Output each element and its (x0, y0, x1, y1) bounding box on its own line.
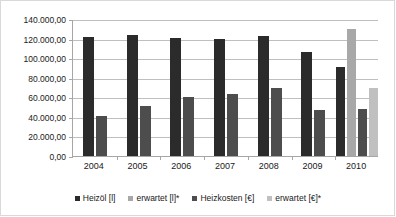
y-axis-tick-label: 60.000,00 (0, 94, 66, 103)
bar (83, 37, 94, 156)
bar (258, 36, 269, 156)
chart-legend: Heizöl [l]erwartet [l]*Heizkosten [€]erw… (0, 194, 396, 203)
bar (369, 88, 378, 156)
bar-group (117, 20, 161, 156)
bar-group (335, 20, 379, 156)
legend-item[interactable]: Heizkosten [€] (192, 194, 254, 203)
x-axis-tick (117, 156, 118, 160)
x-axis-tick (292, 156, 293, 160)
x-axis-tick (204, 156, 205, 160)
x-axis-tick (248, 156, 249, 160)
x-axis-tick (160, 156, 161, 160)
bar (347, 29, 356, 156)
y-axis-tick-label: 40.000,00 (0, 114, 66, 123)
bar-group (160, 20, 204, 156)
bar-group (204, 20, 248, 156)
x-axis-tick-label: 2004 (72, 161, 116, 171)
bar (314, 110, 325, 156)
y-axis-tick (69, 157, 73, 158)
legend-item[interactable]: erwartet [€]* (267, 194, 321, 203)
bar (140, 106, 151, 156)
plot-area (72, 20, 378, 157)
y-axis-tick-label: 0,00 (0, 153, 66, 162)
x-axis-tick-label: 2006 (159, 161, 203, 171)
x-axis-tick-label: 2007 (203, 161, 247, 171)
legend-swatch-icon (267, 196, 272, 201)
bar-chart: 140.000,00120.000,00100.000,0080.000,006… (0, 0, 396, 217)
bar (127, 35, 138, 156)
bar (227, 94, 238, 156)
legend-item[interactable]: Heizöl [l] (75, 194, 116, 203)
y-axis-tick-label: 120.000,00 (0, 36, 66, 45)
bar-group (292, 20, 336, 156)
bar (336, 67, 345, 156)
legend-swatch-icon (128, 196, 133, 201)
y-axis-tick-label: 100.000,00 (0, 55, 66, 64)
legend-swatch-icon (192, 196, 197, 201)
legend-swatch-icon (75, 196, 80, 201)
x-axis-tick-label: 2008 (247, 161, 291, 171)
bar (170, 38, 181, 156)
bar (214, 39, 225, 156)
bar (301, 52, 312, 156)
x-axis-tick (335, 156, 336, 160)
y-axis-tick-label: 20.000,00 (0, 133, 66, 142)
bar (271, 88, 282, 157)
y-axis-tick-label: 140.000,00 (0, 16, 66, 25)
x-axis-tick-label: 2005 (116, 161, 160, 171)
legend-label: Heizöl [l] (83, 194, 116, 203)
bar (183, 97, 194, 156)
legend-label: erwartet [l]* (136, 194, 179, 203)
legend-label: Heizkosten [€] (200, 194, 254, 203)
legend-item[interactable]: erwartet [l]* (128, 194, 179, 203)
bar-group (73, 20, 117, 156)
bar (96, 116, 107, 156)
x-axis-tick-label: 2010 (334, 161, 378, 171)
x-axis-tick-label: 2009 (291, 161, 335, 171)
y-axis-tick-label: 80.000,00 (0, 75, 66, 84)
legend-label: erwartet [€]* (275, 194, 321, 203)
bar-group (248, 20, 292, 156)
bar (358, 109, 367, 156)
